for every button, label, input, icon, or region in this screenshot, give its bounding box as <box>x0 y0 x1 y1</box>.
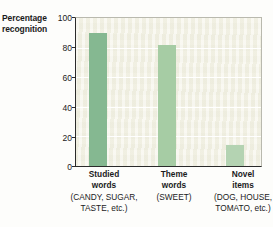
y-tick-label-60: 60 <box>52 74 72 83</box>
y-axis-title-line1: Percentage <box>2 13 47 23</box>
y-tick-label-80: 80 <box>52 44 72 53</box>
x-label-novel-items-line2: items <box>200 180 273 191</box>
plot-area <box>75 17 262 167</box>
x-axis-category-labels: Studied words (CANDY, SUGAR, TASTE, etc.… <box>60 169 273 227</box>
bar-studied-words <box>89 33 107 166</box>
y-tick-label-40: 40 <box>52 104 72 113</box>
x-label-theme-words-examples1: (SWEET) <box>140 192 208 203</box>
x-label-novel-items: Novel items (DOG, HOUSE, TOMATO, etc.) <box>200 169 273 214</box>
x-label-studied-words-examples2: TASTE, etc.) <box>60 203 148 214</box>
x-label-studied-words-line2: words <box>60 180 148 191</box>
chart-screenshot: Percentage recognition 100 80 60 40 20 0… <box>0 0 273 227</box>
y-tick-label-100: 100 <box>52 14 72 23</box>
x-label-novel-items-line1: Novel <box>200 169 273 180</box>
x-label-studied-words-examples1: (CANDY, SUGAR, <box>60 192 148 203</box>
x-label-novel-items-examples1: (DOG, HOUSE, <box>200 192 273 203</box>
x-label-theme-words-line2: words <box>140 180 208 191</box>
y-axis-title-line2: recognition <box>2 24 47 34</box>
x-label-novel-items-examples2: TOMATO, etc.) <box>200 203 273 214</box>
bar-novel-items <box>226 145 244 166</box>
x-label-studied-words: Studied words (CANDY, SUGAR, TASTE, etc.… <box>60 169 148 214</box>
x-label-studied-words-line1: Studied <box>60 169 148 180</box>
y-tick-label-20: 20 <box>52 134 72 143</box>
x-label-theme-words: Theme words (SWEET) <box>140 169 208 203</box>
bar-theme-words <box>158 45 176 166</box>
x-label-theme-words-line1: Theme <box>140 169 208 180</box>
